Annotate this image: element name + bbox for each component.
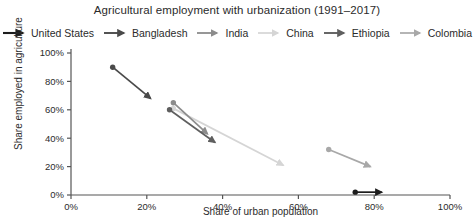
svg-text:0%: 0% — [64, 201, 78, 212]
chart-container: Agricultural employment with urbanizatio… — [0, 0, 474, 224]
svg-text:40%: 40% — [213, 201, 233, 212]
series-arrow — [326, 147, 370, 167]
svg-text:60%: 60% — [45, 104, 65, 115]
svg-text:80%: 80% — [45, 76, 65, 87]
svg-text:100%: 100% — [40, 47, 65, 58]
x-axis-ticks: 0%20%40%60%80%100% — [64, 195, 463, 212]
axis-lines — [71, 49, 450, 195]
plot-area: 0%20%40%60%80%100%0%20%40%60%80%100% — [0, 0, 474, 224]
series-arrow — [353, 189, 382, 194]
svg-text:20%: 20% — [137, 201, 157, 212]
series-arrow — [171, 100, 208, 134]
svg-text:0%: 0% — [50, 189, 64, 200]
series-arrow — [167, 107, 215, 142]
y-axis-ticks: 0%20%40%60%80%100% — [40, 47, 71, 200]
svg-text:100%: 100% — [438, 201, 463, 212]
svg-text:80%: 80% — [365, 201, 385, 212]
svg-text:40%: 40% — [45, 133, 65, 144]
svg-text:60%: 60% — [289, 201, 309, 212]
svg-text:20%: 20% — [45, 161, 65, 172]
series-arrow — [110, 65, 151, 99]
